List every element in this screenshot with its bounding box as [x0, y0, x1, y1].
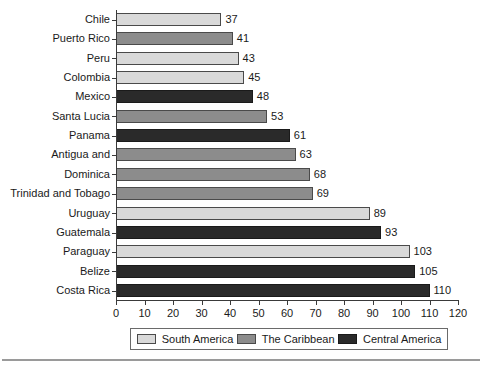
x-axis-tick-label: 70: [309, 307, 321, 320]
bar-value-label: 105: [419, 263, 437, 280]
bar: [116, 90, 253, 103]
category-label: Puerto Rico: [53, 29, 110, 48]
bar-row: Dominica68: [116, 165, 458, 184]
category-label: Peru: [87, 49, 110, 68]
bar-row: Mexico48: [116, 87, 458, 106]
legend-item: Central America: [338, 333, 441, 346]
category-label: Guatemala: [56, 223, 110, 242]
bar-value-label: 93: [385, 224, 397, 241]
bar: [116, 148, 296, 161]
x-axis-tick-label: 10: [138, 307, 150, 320]
x-axis-tick: [202, 301, 203, 305]
bar-value-label: 53: [271, 108, 283, 125]
bar: [116, 265, 415, 278]
bar-row: Panama61: [116, 126, 458, 145]
bar-row: Costa Rica110: [116, 281, 458, 300]
bar-value-label: 103: [414, 243, 432, 260]
legend-label: Central America: [363, 333, 441, 346]
x-axis-tick-label: 50: [252, 307, 264, 320]
bar-value-label: 43: [243, 50, 255, 67]
bar-row: Puerto Rico41: [116, 29, 458, 48]
x-axis-tick: [116, 301, 117, 305]
bar: [116, 110, 267, 123]
bar-chart-figure: Chile37Puerto Rico41Peru43Colombia45Mexi…: [0, 0, 482, 370]
bar-value-label: 41: [237, 30, 249, 47]
bar-row: Guatemala93: [116, 223, 458, 242]
bar-value-label: 48: [257, 88, 269, 105]
bar: [116, 168, 310, 181]
bar-row: Uruguay89: [116, 204, 458, 223]
x-axis-tick: [401, 301, 402, 305]
bar: [116, 13, 221, 26]
x-axis-tick-label: 40: [224, 307, 236, 320]
category-label: Costa Rica: [56, 281, 110, 300]
bar-row: Peru43: [116, 49, 458, 68]
x-axis-tick: [430, 301, 431, 305]
bar: [116, 207, 370, 220]
x-axis-tick-label: 110: [421, 307, 439, 320]
category-label: Dominica: [64, 165, 110, 184]
legend-swatch-icon: [338, 334, 357, 344]
bar: [116, 187, 313, 200]
bar-row: Belize105: [116, 262, 458, 281]
bar-value-label: 89: [374, 205, 386, 222]
bar-value-label: 68: [314, 166, 326, 183]
x-axis-tick-label: 100: [392, 307, 410, 320]
bar: [116, 52, 239, 65]
bar-value-label: 61: [294, 127, 306, 144]
bar: [116, 32, 233, 45]
bar: [116, 71, 244, 84]
x-axis-tick: [287, 301, 288, 305]
legend-label: The Caribbean: [262, 333, 335, 346]
category-label: Trinidad and Tobago: [10, 184, 110, 203]
legend-label: South America: [162, 333, 234, 346]
x-axis-tick: [344, 301, 345, 305]
category-label: Belize: [80, 262, 110, 281]
x-axis-tick: [458, 301, 459, 305]
x-axis-tick-label: 80: [338, 307, 350, 320]
category-label: Paraguay: [63, 242, 110, 261]
chart-legend: South AmericaThe CaribbeanCentral Americ…: [130, 328, 448, 350]
x-axis-tick-label: 90: [366, 307, 378, 320]
bar-row: Santa Lucia53: [116, 107, 458, 126]
page-divider-rule: [2, 359, 480, 361]
bar-value-label: 69: [317, 185, 329, 202]
legend-swatch-icon: [237, 334, 256, 344]
plot-area: Chile37Puerto Rico41Peru43Colombia45Mexi…: [116, 10, 458, 300]
bar: [116, 226, 381, 239]
category-label: Mexico: [75, 87, 110, 106]
bar: [116, 284, 430, 297]
y-axis-line: [116, 10, 117, 301]
x-axis-tick: [173, 301, 174, 305]
x-axis-tick-label: 30: [195, 307, 207, 320]
bar-value-label: 63: [300, 146, 312, 163]
x-axis-tick: [259, 301, 260, 305]
category-label: Panama: [69, 126, 110, 145]
x-axis-tick-label: 20: [167, 307, 179, 320]
bar-row: Colombia45: [116, 68, 458, 87]
bar: [116, 245, 410, 258]
category-label: Colombia: [64, 68, 110, 87]
bar: [116, 129, 290, 142]
legend-item: The Caribbean: [237, 333, 335, 346]
x-axis-tick-label: 120: [449, 307, 467, 320]
bar-value-label: 37: [225, 11, 237, 28]
bar-value-label: 110: [434, 282, 452, 299]
bar-row: Chile37: [116, 10, 458, 29]
x-axis-tick-label: 60: [281, 307, 293, 320]
bar-row: Trinidad and Tobago69: [116, 184, 458, 203]
x-axis-tick-label: 0: [113, 307, 119, 320]
legend-item: South America: [137, 333, 234, 346]
category-label: Chile: [85, 10, 110, 29]
x-axis-tick: [145, 301, 146, 305]
x-axis-tick: [316, 301, 317, 305]
legend-swatch-icon: [137, 334, 156, 344]
bar-row: Paraguay103: [116, 242, 458, 261]
bar-value-label: 45: [248, 69, 260, 86]
x-axis-tick: [373, 301, 374, 305]
bar-row: Antigua and63: [116, 145, 458, 164]
x-axis-tick: [230, 301, 231, 305]
category-label: Uruguay: [68, 204, 110, 223]
category-label: Antigua and: [51, 145, 110, 164]
category-label: Santa Lucia: [52, 107, 110, 126]
